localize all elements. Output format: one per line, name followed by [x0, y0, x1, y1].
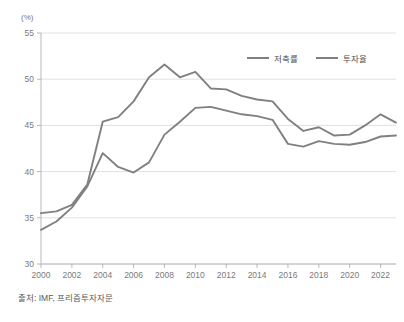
y-axis-tick-label: 40: [25, 167, 35, 177]
legend-item-savings-rate[interactable]: 저축률: [247, 52, 298, 64]
series-line-savings-rate: [41, 64, 396, 213]
x-axis-tick-label: 2002: [62, 270, 81, 280]
source-note: 출처: IMF, 프리즘투자자문: [18, 291, 113, 303]
legend-swatch-icon: [316, 57, 338, 59]
x-axis-tick-labels: 2000200220042006200820102012201420162018…: [32, 270, 391, 280]
x-axis-tick-label: 2000: [32, 270, 51, 280]
x-axis-tick-label: 2010: [186, 270, 205, 280]
y-axis-tick-label: 50: [25, 74, 35, 84]
plot-area: 303540455055 200020022004200620082010201…: [0, 0, 404, 322]
savings-investment-rate-chart: (%) 303540455055 20002002200420062008201…: [0, 0, 404, 322]
y-axis-tick-label: 45: [25, 120, 35, 130]
y-axis-tick-label: 30: [25, 259, 35, 269]
y-axis-tick-label: 35: [25, 213, 35, 223]
y-axis-tick-label: 55: [25, 28, 35, 38]
x-axis-tick-label: 2022: [371, 270, 390, 280]
x-axis-tick-label: 2006: [124, 270, 143, 280]
data-series: [41, 64, 396, 229]
chart-legend: 저축률 투자율: [247, 52, 367, 64]
x-axis-tick-label: 2012: [217, 270, 236, 280]
x-axis-tick-label: 2004: [93, 270, 112, 280]
x-axis-tick-label: 2014: [248, 270, 267, 280]
legend-label: 저축률: [274, 52, 298, 64]
x-axis-tick-label: 2016: [278, 270, 297, 280]
axes: [37, 33, 396, 268]
x-axis-tick-label: 2008: [155, 270, 174, 280]
x-axis-tick-label: 2020: [340, 270, 359, 280]
y-axis-tick-labels: 303540455055: [25, 28, 35, 269]
chart-svg: 303540455055 200020022004200620082010201…: [0, 0, 404, 322]
legend-item-investment-rate[interactable]: 투자율: [316, 52, 367, 64]
x-axis-tick-label: 2018: [309, 270, 328, 280]
gridlines: [41, 33, 396, 264]
legend-label: 투자율: [343, 52, 367, 64]
legend-swatch-icon: [247, 57, 269, 59]
